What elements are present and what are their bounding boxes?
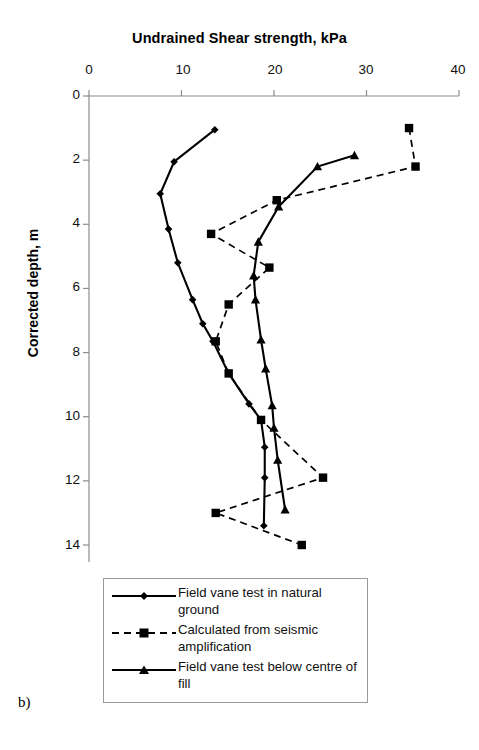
series-0 bbox=[156, 126, 268, 530]
legend-key-square bbox=[110, 625, 178, 641]
legend-item-seismic-amplification: Calculated from seismic amplification bbox=[104, 622, 367, 655]
axis-lines bbox=[83, 90, 459, 562]
data-series-layer bbox=[156, 124, 419, 549]
legend-label-1: Calculated from seismic amplification bbox=[178, 622, 363, 655]
panel-label: b) bbox=[18, 694, 31, 711]
legend-label-2: Field vane test below centre of fill bbox=[178, 659, 363, 692]
legend: Field vane test in natural ground Calcul… bbox=[103, 578, 368, 703]
legend-label-0: Field vane test in natural ground bbox=[178, 585, 363, 618]
series-1 bbox=[207, 124, 420, 549]
legend-key-diamond bbox=[110, 588, 178, 604]
legend-item-field-vane-fill: Field vane test below centre of fill bbox=[104, 659, 367, 692]
legend-item-field-vane-natural: Field vane test in natural ground bbox=[104, 585, 367, 618]
figure-panel: Undrained Shear strength, kPa Corrected … bbox=[0, 0, 479, 750]
legend-key-triangle bbox=[110, 662, 178, 678]
